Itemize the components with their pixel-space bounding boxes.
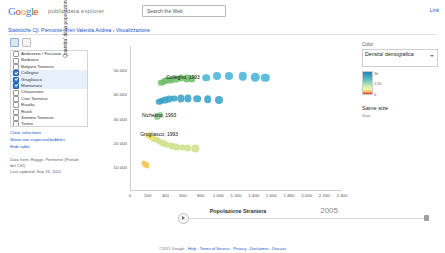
footer-link[interactable]: Privacy - [232,246,249,251]
chart-area: Quantita' della popolazione totale per c… [92,40,350,225]
y-axis-tick: 20.000 [114,140,127,145]
checkbox-icon[interactable] [13,64,19,70]
x-axis-tick: 800 [197,193,204,198]
checkbox-icon[interactable] [13,115,19,121]
color-legend-labels: 3k 1.5k 0 [374,71,382,97]
x-axis-tick: 400 [162,193,169,198]
checkbox-icon[interactable] [13,83,19,89]
data-point[interactable] [251,73,259,81]
product-name: public data explorer [48,8,104,14]
chart-annotation: Nichelino, 1993 [142,112,176,118]
checkbox-icon[interactable] [13,109,19,115]
panel-link[interactable]: Show non expected bubbles [10,137,88,143]
checkbox-icon[interactable] [13,70,19,76]
x-axis-tick: 0 [129,193,131,198]
panel-links[interactable]: Clear selectionsShow non expected bubble… [10,130,88,150]
x-axis-tick: 600 [179,193,186,198]
page-footer: ©2011 Google - Help - Terms of Service -… [0,246,445,251]
color-metric-select[interactable]: Densita' demografica [362,49,438,67]
selection-panel: Andezeno / FossanoBarbaniaBolgaro Torine… [10,38,88,175]
x-axis-tick: 1.800 [284,193,295,198]
y-axis-tick: 30.000 [114,116,127,121]
data-point[interactable] [213,72,221,80]
data-point[interactable] [239,72,247,80]
legend-min: 0 [374,92,382,97]
chart-annotation: Grugliasco, 1993 [140,131,178,137]
list-item[interactable]: Torino [11,121,87,127]
grid-view-button[interactable] [10,38,19,47]
data-point[interactable] [185,95,192,102]
x-axis-tick: 1.000 [213,193,224,198]
data-point[interactable] [144,163,149,168]
google-logo[interactable]: Google [8,5,38,17]
data-point[interactable] [193,95,201,103]
chart-annotation: Collegno, 1993 [166,74,200,80]
checkbox-icon[interactable] [13,96,19,102]
footer-link[interactable]: Help - [188,246,199,251]
breadcrumb-current: Visualizzazione [116,27,150,33]
data-source-note: Data from: Rogge, Piemonte (Portaledel C… [10,157,86,175]
size-option[interactable]: Same size [362,105,438,111]
color-metric-value: Densita' demografica [365,51,414,57]
x-axis-tick: 200 [144,193,151,198]
y-axis-label: Quantita' della popolazione totale per c… [62,0,68,62]
scatter-plot[interactable]: 10.00020.00030.00040.00050.0000200400600… [130,46,342,191]
footer-link[interactable]: Terms of Service - [199,246,232,251]
y-axis-line [130,46,131,191]
chevron-down-icon [430,55,434,57]
checkbox-icon[interactable] [13,90,19,96]
checkbox-icon[interactable] [13,51,19,57]
x-axis-label: Popolazione Straniera [132,208,344,214]
data-point[interactable] [261,73,269,81]
data-point[interactable] [215,96,223,104]
data-point[interactable] [202,74,210,82]
legend-max: 3k [374,71,382,76]
checkbox-icon[interactable] [13,121,19,127]
list-item-label: Torino [21,121,33,127]
breadcrumb-dataset[interactable]: Statistiche Cjl: Piemonte, Tren Valentia… [8,27,111,33]
breadcrumb[interactable]: Statistiche Cjl: Piemonte, Tren Valentia… [8,27,150,33]
y-axis-tick: 40.000 [114,92,127,97]
data-note-line: Last updated: Sep 16, 2011 [10,169,86,175]
options-panel: Color Densita' demografica 3k 1.5k 0 Sam… [362,42,438,118]
x-axis-tick: 1.600 [266,193,277,198]
data-point[interactable] [177,95,184,102]
size-option-sub: Size [362,113,438,118]
panel-link[interactable]: Hide table [10,144,88,150]
footer-links[interactable]: Help - Terms of Service - Privacy - Disc… [188,246,286,251]
list-view-button[interactable] [22,38,31,47]
x-axis-tick: 2.000 [301,193,312,198]
checkbox-icon[interactable] [13,58,19,64]
timeline-slider[interactable] [188,218,428,219]
entity-list[interactable]: Andezeno / FossanoBarbaniaBolgaro Torine… [10,50,88,127]
color-legend-gradient [362,71,373,95]
panel-toolbar [10,38,88,47]
footer-copyright: ©2011 Google - [159,246,187,251]
data-point[interactable] [192,145,199,152]
year-display: 2005 [320,206,338,215]
header-divider [8,34,437,35]
x-axis-line [130,190,342,191]
data-point[interactable] [225,72,233,80]
panel-link[interactable]: Clear selections [10,130,88,136]
footer-link[interactable]: Discuss [271,246,286,251]
x-axis-tick: 1.400 [248,193,259,198]
y-axis-tick: 50.000 [114,68,127,73]
x-axis-tick: 2.200 [319,193,330,198]
timeline-knob[interactable] [424,215,429,221]
data-point[interactable] [204,95,212,103]
checkbox-icon[interactable] [13,102,19,108]
link-button[interactable]: Link [430,7,439,13]
legend-mid: 1.5k [374,81,382,86]
footer-link[interactable]: Disclaimer - [249,246,271,251]
y-axis-tick: 10.000 [114,164,127,169]
checkbox-icon[interactable] [13,77,19,83]
search-web-button[interactable]: Search the Web [142,5,226,17]
x-axis-tick: 1.200 [231,193,242,198]
color-label: Color [362,42,438,47]
x-axis-tick: 2.400 [337,193,348,198]
search-web-label: Search the Web [147,8,183,14]
